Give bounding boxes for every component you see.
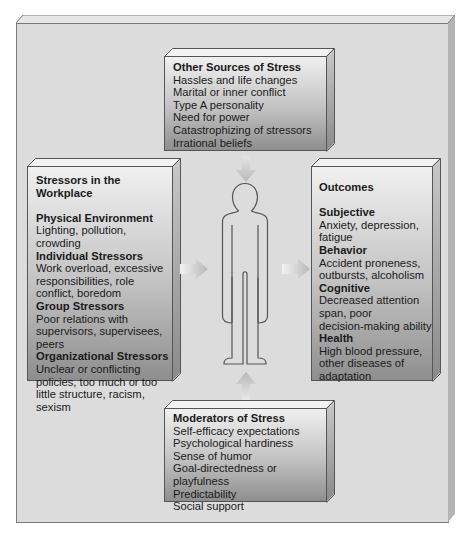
section-line: conflict, boredom [36, 287, 172, 300]
section-heading: Group Stressors [36, 300, 172, 313]
section-line: sexism [36, 401, 172, 414]
section-line: Lighting, pollution, [36, 224, 172, 237]
spacer [319, 194, 432, 207]
section-line: Poor relations with [36, 313, 172, 326]
section-line: Anxiety, depression, [319, 219, 432, 232]
box-top-face [164, 400, 334, 408]
workplace-stressors-content: Stressors in the Workplace Physical Envi… [27, 166, 173, 381]
box-side-face [326, 48, 334, 151]
person-figure-icon [210, 182, 280, 372]
moderators-item: Social support [173, 500, 326, 513]
diagram-panel-top-face [16, 15, 455, 23]
section-line: other diseases of [319, 357, 432, 370]
workplace-title: Stressors in the Workplace [36, 174, 172, 199]
section-line: policies, too much or too [36, 376, 172, 389]
other-sources-box: Other Sources of Stress Hassles and life… [164, 48, 334, 151]
section-line: adaptation [319, 370, 432, 383]
section-line: decision-making ability [319, 320, 432, 333]
outcomes-title: Outcomes [319, 181, 432, 194]
section-line: span, poor [319, 307, 432, 320]
outcomes-content: Outcomes Subjective Anxiety, depression,… [311, 166, 433, 381]
box-side-face [432, 158, 440, 381]
outcomes-box: Outcomes Subjective Anxiety, depression,… [311, 158, 440, 381]
section-line: peers [36, 338, 172, 351]
section-line: Decreased attention [319, 294, 432, 307]
moderators-item: Goal-directedness or playfulness [173, 462, 326, 487]
section-heading: Health [319, 332, 432, 345]
box-top-face [164, 48, 334, 56]
workplace-stressors-box: Stressors in the Workplace Physical Envi… [27, 158, 180, 381]
other-sources-item: Irrational beliefs [173, 137, 326, 150]
section-line: Unclear or conflicting [36, 363, 172, 376]
section-line: responsibilities, role [36, 275, 172, 288]
section-heading: Physical Environment [36, 212, 172, 225]
arrow-right-icon [180, 259, 210, 279]
other-sources-item: Marital or inner conflict [173, 86, 326, 99]
moderators-item: Predictability [173, 488, 326, 501]
section-heading: Individual Stressors [36, 250, 172, 263]
section-line: Work overload, excessive [36, 262, 172, 275]
other-sources-item: Need for power [173, 111, 326, 124]
arrow-right-icon [282, 259, 312, 279]
diagram-panel-side-face [448, 15, 455, 522]
box-top-face [27, 158, 180, 166]
spacer [36, 199, 172, 212]
arrow-up-icon [236, 372, 256, 400]
section-heading: Cognitive [319, 282, 432, 295]
other-sources-title: Other Sources of Stress [173, 61, 326, 74]
moderators-content: Moderators of Stress Self-efficacy expec… [164, 408, 327, 502]
box-side-face [172, 158, 180, 381]
moderators-item: Self-efficacy expectations [173, 425, 326, 438]
section-line: Accident proneness, [319, 257, 432, 270]
section-heading: Organizational Stressors [36, 350, 172, 363]
other-sources-item: Type A personality [173, 99, 326, 112]
section-line: little structure, racism, [36, 388, 172, 401]
section-line: outbursts, alcoholism [319, 269, 432, 282]
moderators-title: Moderators of Stress [173, 412, 326, 425]
section-line: supervisors, supervisees, [36, 325, 172, 338]
moderators-item: Psychological hardiness [173, 437, 326, 450]
section-line: High blood pressure, [319, 345, 432, 358]
moderators-box: Moderators of Stress Self-efficacy expec… [164, 400, 334, 502]
box-side-face [326, 400, 334, 502]
box-top-face [311, 158, 440, 166]
moderators-item: Sense of humor [173, 450, 326, 463]
other-sources-item: Hassles and life changes [173, 74, 326, 87]
other-sources-content: Other Sources of Stress Hassles and life… [164, 56, 327, 151]
section-line: fatigue [319, 231, 432, 244]
section-heading: Subjective [319, 206, 432, 219]
other-sources-item: Catastrophizing of stressors [173, 124, 326, 137]
section-line: crowding [36, 237, 172, 250]
arrow-down-icon [236, 156, 256, 184]
section-heading: Behavior [319, 244, 432, 257]
